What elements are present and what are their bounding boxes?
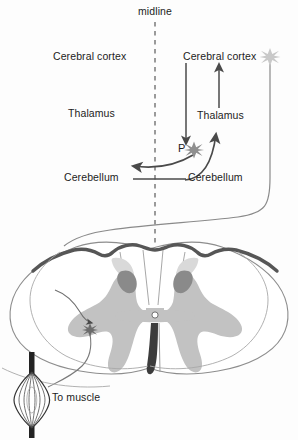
central-canal: [152, 312, 158, 318]
midline-label: midline: [138, 6, 172, 17]
figure-canvas: [0, 0, 298, 440]
arrow-pons-to-cerebellum: [133, 155, 193, 167]
neuroanatomy-figure: midline Cerebral cortex Thalamus Cerebel…: [0, 0, 298, 440]
label-left-cerebral-cortex: Cerebral cortex: [53, 51, 126, 62]
label-to-muscle: To muscle: [52, 392, 100, 403]
label-right-cerebellum: Cerebellum: [188, 172, 243, 183]
label-left-cerebellum: Cerebellum: [64, 172, 119, 183]
label-left-thalamus: Thalamus: [68, 108, 115, 119]
corticospinal-pathway: [64, 64, 270, 246]
cortical-neuron-star: [260, 48, 281, 66]
label-right-cerebral-cortex: Cerebral cortex: [183, 51, 256, 62]
pontine-neuron-star: [184, 142, 204, 159]
label-right-thalamus: Thalamus: [197, 110, 244, 121]
label-pontine-nucleus: P: [178, 143, 185, 154]
muscle-spindle: [14, 352, 50, 438]
